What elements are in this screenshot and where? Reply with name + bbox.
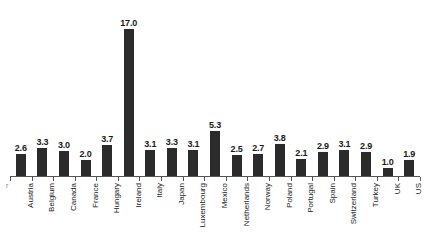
bar-group: 2.7: [247, 0, 269, 177]
x-axis-tick: [269, 177, 270, 181]
bar-group: 1.9: [398, 0, 420, 177]
bar-group: 2.9: [312, 0, 334, 177]
category-label: Canada: [68, 183, 79, 251]
category-label: Italy: [154, 183, 165, 251]
category-label: Poland: [284, 183, 295, 251]
bar-value-label: 1.9: [393, 149, 425, 159]
bar-group: 3.1: [139, 0, 161, 177]
x-axis-tick: [32, 177, 33, 181]
x-axis-tick: [75, 177, 76, 181]
category-label: Japan: [176, 183, 187, 251]
bar: [404, 160, 414, 177]
x-axis-right-cap: [420, 177, 421, 181]
bar: [210, 131, 220, 177]
category-label: Austria: [25, 183, 36, 251]
x-axis-tick: [398, 177, 399, 181]
category-label: Netherlands: [241, 183, 252, 251]
x-axis-tick: [312, 177, 313, 181]
bar-group: 2.6: [10, 0, 32, 177]
bar-group: 2.9: [355, 0, 377, 177]
bar: [145, 150, 155, 177]
category-label: Switzerland: [348, 183, 359, 251]
bar-group: 17.0: [118, 0, 140, 177]
category-label: France: [90, 183, 101, 251]
bar: [167, 148, 177, 177]
category-label: Norway: [262, 183, 273, 251]
bar: [188, 150, 198, 177]
bar: [361, 152, 371, 177]
category-label: Portugal: [305, 183, 316, 251]
bar: [318, 152, 328, 177]
x-axis-tick: [118, 177, 119, 181]
x-axis-tick: [10, 177, 11, 181]
x-axis-tick: [96, 177, 97, 181]
bar: [253, 154, 263, 178]
plot-area: 2.63.33.02.03.717.03.13.33.15.32.52.73.8…: [0, 0, 432, 177]
bar: [59, 151, 69, 177]
x-axis-tick: [355, 177, 356, 181]
category-label: Luxembourg: [197, 183, 208, 251]
category-labels-area: AustriaBelgiumCanadaFranceHungaryIreland…: [0, 183, 432, 251]
bar: [339, 150, 349, 177]
bar-group: 3.3: [31, 0, 53, 177]
category-label: Hungary: [111, 183, 122, 251]
bar: [232, 155, 242, 177]
x-axis-tick: [53, 177, 54, 181]
bar-chart: 2.63.33.02.03.717.03.13.33.15.32.52.73.8…: [0, 0, 432, 251]
x-axis-tick: [161, 177, 162, 181]
category-label: Turkey: [370, 183, 381, 251]
bar-group: 3.1: [182, 0, 204, 177]
category-label: Ireland: [133, 183, 144, 251]
x-axis-tick: [377, 177, 378, 181]
bar: [81, 160, 91, 177]
x-axis-tick: [247, 177, 248, 181]
x-axis-line: [10, 176, 420, 177]
x-axis-tick: [139, 177, 140, 181]
x-axis-tick: [183, 177, 184, 181]
category-label: US: [413, 183, 424, 251]
x-axis-tick: [226, 177, 227, 181]
x-axis-tick: [204, 177, 205, 181]
bar-group: 2.0: [75, 0, 97, 177]
category-label: Mexico: [219, 183, 230, 251]
x-axis-tick: [291, 177, 292, 181]
bar: [37, 148, 47, 177]
category-label: Spain: [327, 183, 338, 251]
bar: [124, 29, 134, 177]
bar: [275, 144, 285, 177]
bar-group: 3.3: [161, 0, 183, 177]
category-label: Belgium: [46, 183, 57, 251]
x-axis-tick: [334, 177, 335, 181]
bar: [16, 154, 26, 177]
category-label: UK: [392, 183, 403, 251]
bar: [102, 145, 112, 177]
bar: [296, 159, 306, 177]
